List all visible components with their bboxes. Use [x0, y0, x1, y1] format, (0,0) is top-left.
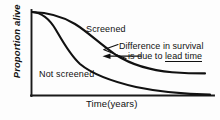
y-axis-label: Proportion alive — [12, 2, 23, 80]
annotation-line-2-prefix: is due to — [128, 51, 165, 61]
annotation-arrowhead — [103, 53, 111, 59]
x-axis-label: Time(years) — [86, 99, 137, 110]
annotation-line-1: Difference in survival — [119, 41, 203, 51]
annotation-line-2: is due to lead time — [119, 51, 203, 61]
lead-time-annotation: Difference in survival is due to lead ti… — [119, 41, 203, 61]
not-screened-series-label: Not screened — [39, 69, 94, 79]
lead-time-bias-figure: Proportion alive Time(years) Screened No… — [0, 0, 220, 120]
screened-series-label: Screened — [86, 24, 126, 34]
annotation-lead-time-emphasis: lead time — [165, 51, 202, 61]
